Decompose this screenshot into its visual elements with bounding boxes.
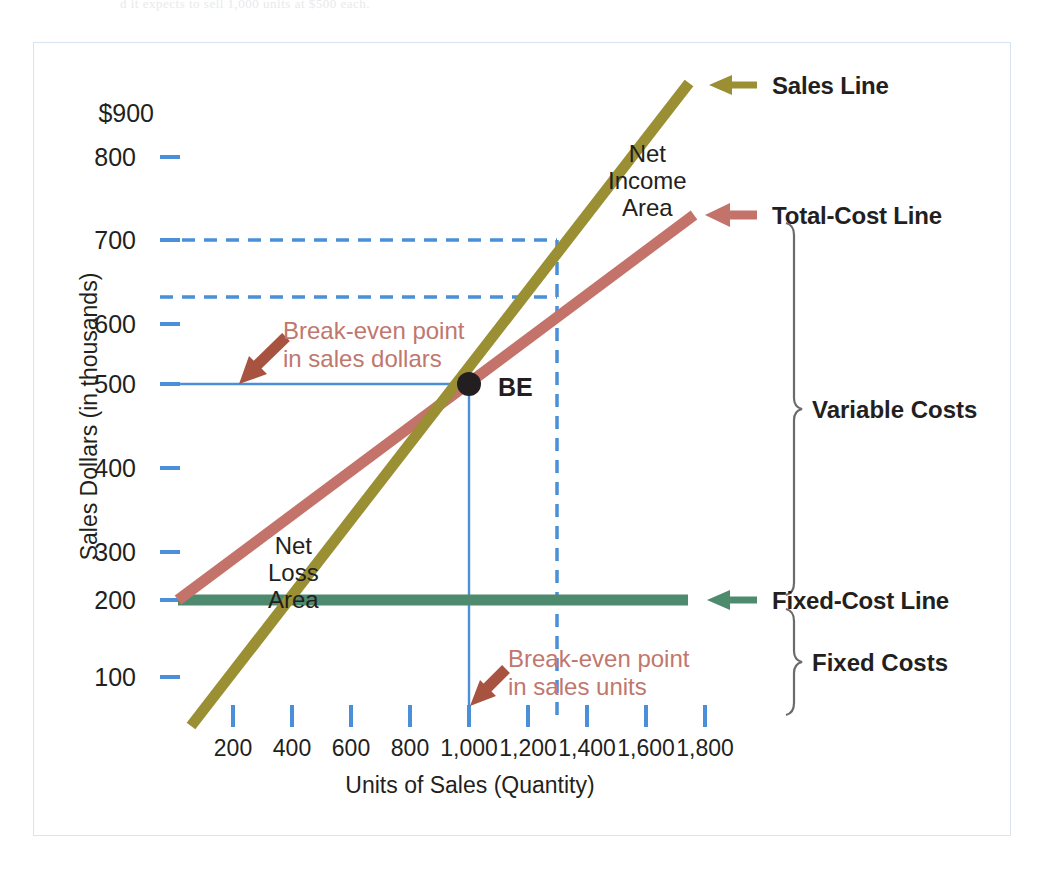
sales-line-legend-arrow	[709, 75, 757, 95]
break-even-point-label: BE	[498, 373, 533, 402]
be-dollars-annotation-line-2: in sales dollars	[283, 345, 464, 373]
net-loss-area-line-1: Net	[268, 533, 319, 560]
be-units-annotation-line-1: Break-even point	[508, 645, 689, 673]
fixed-costs-bracket	[786, 609, 802, 715]
fixed-costs-bracket-label: Fixed Costs	[812, 649, 948, 677]
y-axis-ticks	[160, 157, 180, 677]
net-income-area-label: Net Income Area	[608, 141, 687, 222]
net-loss-area-line-2: Loss	[268, 560, 319, 587]
break-even-chart	[34, 43, 1010, 835]
be-dollars-annotation: Break-even point in sales dollars	[283, 317, 464, 372]
y-tick-label-100: 100	[62, 663, 136, 692]
chart-frame: $900 800 700 600 500 400 300 200 100 Sal…	[33, 42, 1011, 836]
page-residual-text: d it expects to sell 1,000 units at $500…	[120, 0, 370, 12]
sales-line-legend-label: Sales Line	[772, 72, 889, 100]
x-axis-ticks	[233, 705, 705, 727]
y-tick-label-900: $900	[62, 99, 154, 128]
be-units-annotation: Break-even point in sales units	[508, 645, 689, 700]
fixed-cost-line-legend-label: Fixed-Cost Line	[772, 587, 949, 615]
break-even-marker	[457, 372, 481, 396]
y-axis-title: Sales Dollars (in thousands)	[76, 273, 102, 561]
net-loss-area-label: Net Loss Area	[268, 533, 319, 614]
variable-costs-bracket-label: Variable Costs	[812, 396, 977, 424]
total-cost-line-legend-label: Total-Cost Line	[772, 202, 942, 230]
x-axis-title: Units of Sales (Quantity)	[310, 772, 630, 799]
y-tick-label-800: 800	[62, 143, 136, 172]
net-income-area-line-2: Income	[608, 168, 687, 195]
total-cost-line-legend-arrow	[705, 203, 757, 227]
figure-page: d it expects to sell 1,000 units at $500…	[0, 0, 1045, 881]
y-axis-title-wrapper: Sales Dollars (in thousands)	[76, 252, 103, 582]
be-dollars-annotation-line-1: Break-even point	[283, 317, 464, 345]
variable-costs-bracket	[786, 223, 802, 595]
net-income-area-line-3: Area	[608, 195, 687, 222]
y-tick-label-200: 200	[62, 586, 136, 615]
fixed-cost-line-legend-arrow	[707, 590, 757, 610]
x-tick-label-1800: 1,800	[664, 735, 746, 762]
net-income-area-line-1: Net	[608, 141, 687, 168]
be-dollars-arrow	[239, 337, 286, 384]
net-loss-area-line-3: Area	[268, 587, 319, 614]
be-units-arrow	[470, 669, 506, 706]
be-units-annotation-line-2: in sales units	[508, 673, 689, 701]
